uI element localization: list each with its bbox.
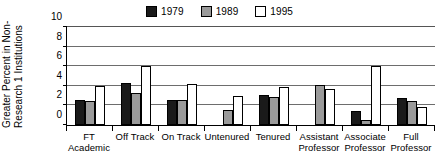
y-tick-mark (63, 65, 67, 66)
bar-1979-full-professor (397, 98, 407, 125)
bar-chart: 1979 1989 1995 Greater Percent in Non- R… (0, 0, 447, 161)
y-tick-label: 2 (46, 90, 62, 100)
bar-1989-off-track (131, 93, 141, 125)
bar-1989-ft-academic (85, 101, 95, 125)
bar-1979-off-track (121, 83, 131, 125)
x-category-label: Tenured (250, 131, 296, 142)
bar-1989-tenured (269, 97, 279, 125)
bar-1995-untenured (233, 96, 243, 125)
bar-1995-tenured (279, 87, 289, 125)
bar-1979-on-track (167, 100, 177, 125)
y-tick-label: 0 (46, 110, 62, 120)
x-category-label: FullProfessor (388, 131, 434, 153)
chart-legend: 1979 1989 1995 (146, 4, 316, 18)
plot-area (66, 27, 435, 126)
bar-1995-ft-academic (95, 86, 105, 125)
x-category-label: On Track (158, 131, 204, 142)
y-axis-title: Greater Percent in Non- Research 1 Insti… (0, 18, 30, 128)
bar-1995-associate-professor (371, 66, 381, 125)
x-category-label: AssociateProfessor (342, 131, 388, 153)
legend-label-1979: 1979 (161, 6, 184, 17)
bar-1995-on-track (187, 84, 197, 125)
bar-1989-untenured (223, 110, 233, 125)
bar-1989-on-track (177, 100, 187, 125)
bar-1979-tenured (259, 95, 269, 125)
y-tick-label: 8 (46, 32, 62, 42)
x-category-label: AssistantProfessor (296, 131, 342, 153)
bars-layer (67, 27, 435, 125)
legend-swatch-1979 (146, 6, 157, 17)
legend-entry-1979: 1979 (146, 6, 184, 17)
bar-1995-full-professor (417, 107, 427, 125)
legend-label-1995: 1995 (270, 6, 293, 17)
bar-1995-assistant-professor (325, 89, 335, 125)
y-tick-mark (63, 124, 67, 125)
y-tick-mark (63, 26, 67, 27)
bar-1995-off-track (141, 66, 151, 125)
y-axis-title-line-2: Research 1 Institutions (13, 25, 24, 128)
y-tick-label: 10 (46, 12, 62, 22)
y-axis-title-line-1: Greater Percent in Non- (1, 21, 12, 128)
legend-label-1989: 1989 (216, 6, 239, 17)
x-category-label: FTAcademic (66, 131, 112, 153)
legend-entry-1989: 1989 (201, 6, 239, 17)
bar-1979-associate-professor (351, 111, 361, 125)
bar-1989-assistant-professor (315, 85, 325, 125)
bar-1989-associate-professor (361, 120, 371, 125)
y-axis-tick-labels: 0246810 (44, 27, 62, 125)
legend-swatch-1989 (201, 6, 212, 17)
y-tick-label: 4 (46, 71, 62, 81)
y-tick-label: 6 (46, 51, 62, 61)
legend-entry-1995: 1995 (255, 6, 293, 17)
bar-1989-full-professor (407, 101, 417, 126)
y-tick-mark (63, 46, 67, 47)
y-tick-mark (63, 104, 67, 105)
x-category-label: Off Track (112, 131, 158, 142)
x-axis-category-labels: FTAcademicOff TrackOn TrackUntenuredTenu… (66, 131, 436, 159)
bar-1979-ft-academic (75, 100, 85, 125)
y-tick-mark (63, 85, 67, 86)
legend-swatch-1995 (255, 6, 266, 17)
x-category-label: Untenured (204, 131, 250, 142)
